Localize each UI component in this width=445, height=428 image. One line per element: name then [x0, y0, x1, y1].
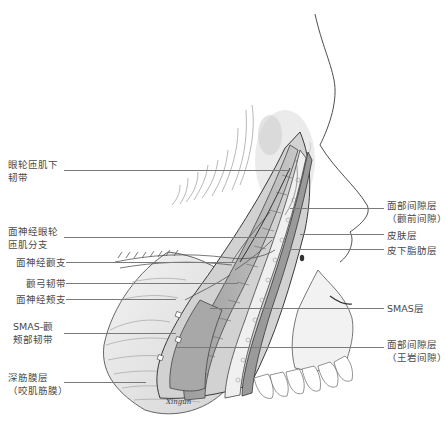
leader-line-l7 [64, 382, 146, 383]
leader-line-r1 [290, 208, 384, 209]
label-deep-fascia-masseteric: 深筋膜层 （咬肌筋膜） [8, 371, 72, 397]
label-zygomatic-arch-ligament: 颧弓韧带 [8, 277, 66, 290]
facial-layers-illustration [0, 0, 445, 428]
label-smas-layer: SMAS层 [387, 302, 424, 315]
label-subcutaneous-fat-layer: 皮下脂肪层 [387, 244, 437, 257]
label-suborbicularis-ligament: 眼轮匝肌下 韧带 [8, 158, 76, 184]
label-smas-zygomatic-buccal-ligament: SMAS-颧 颊部韧带 [13, 320, 71, 346]
label-prezygomatic-space: 面部间隙层 （颧前间隙） [387, 199, 445, 225]
temporal-strokes [172, 105, 253, 205]
leader-line-r2 [300, 234, 384, 235]
label-skin-layer: 皮肤层 [387, 229, 417, 242]
leader-line-l5 [66, 299, 176, 300]
nose-profile-outline [315, 14, 368, 262]
leader-line-l6 [64, 333, 176, 334]
label-wangyan-space: 面部间隙层 （王岩间隙） [387, 338, 445, 364]
maxilla-outline [292, 270, 353, 371]
leader-line-r3 [290, 249, 384, 250]
leader-line-r5 [176, 347, 384, 348]
leader-line-l2 [64, 237, 274, 238]
label-facial-nerve-buccal-branch: 面神经颊支 [8, 293, 66, 306]
leader-line-l3 [66, 262, 236, 263]
figure-canvas: 眼轮匝肌下 韧带 面神经眼轮 匝肌分支 面神经颧支 颧弓韧带 面神经颊支 SMA… [0, 0, 445, 428]
leader-line-r4 [210, 308, 384, 309]
label-facial-nerve-zygomatic-branch: 面神经颧支 [8, 256, 66, 269]
artist-signature: Xingun [166, 398, 191, 406]
leader-line-l4 [66, 283, 238, 284]
label-facial-nerve-orbicularis-branch: 面神经眼轮 匝肌分支 [8, 225, 76, 251]
leader-line-l1 [64, 170, 290, 171]
